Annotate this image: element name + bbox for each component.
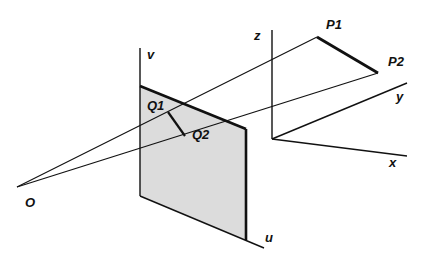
label-v: v: [147, 47, 155, 62]
projection-diagram: v u z y x P1 P2 Q1 Q2 O: [0, 0, 422, 261]
x-axis: [272, 139, 407, 156]
label-z: z: [253, 28, 261, 43]
label-o: O: [25, 195, 35, 210]
y-axis: [272, 83, 407, 139]
label-q2: Q2: [192, 127, 210, 142]
label-y: y: [395, 89, 404, 104]
label-p1: P1: [326, 17, 342, 32]
label-q1: Q1: [147, 98, 164, 113]
label-u: u: [265, 230, 273, 245]
label-p2: P2: [388, 54, 405, 69]
segment-p1-p2: [317, 37, 378, 73]
label-x: x: [388, 155, 397, 170]
